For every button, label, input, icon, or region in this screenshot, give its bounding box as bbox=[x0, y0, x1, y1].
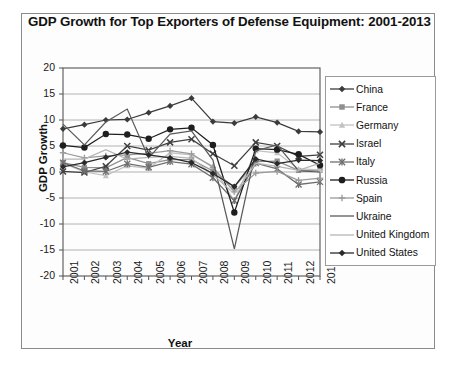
y-tick-label: -5 bbox=[21, 191, 55, 203]
y-tick-label: -20 bbox=[21, 269, 55, 281]
legend-marker-square-icon bbox=[329, 100, 355, 114]
data-point-diamond bbox=[339, 250, 346, 257]
data-point-circle bbox=[339, 177, 346, 184]
legend-label: United Kingdom bbox=[356, 229, 429, 240]
y-tick-label: 20 bbox=[21, 61, 55, 73]
data-point-square bbox=[339, 105, 344, 110]
legend-item-ukraine[interactable]: Ukraine bbox=[329, 207, 433, 225]
legend-item-united-kingdom[interactable]: United Kingdom bbox=[329, 226, 433, 244]
x-tick-label: 2006 bbox=[175, 261, 187, 284]
legend-marker-none-icon bbox=[329, 209, 355, 223]
x-tick-label: 2004 bbox=[132, 261, 144, 284]
legend-label: France bbox=[356, 102, 388, 113]
legend-label: Israel bbox=[356, 138, 381, 149]
x-tick-label: 2007 bbox=[197, 261, 209, 284]
y-tick-label: -10 bbox=[21, 217, 55, 229]
x-tick-label: 2009 bbox=[239, 261, 251, 284]
y-tick-label: 10 bbox=[21, 113, 55, 125]
x-tick-label: 2005 bbox=[154, 261, 166, 284]
x-tick-label: 2008 bbox=[218, 261, 230, 284]
legend-label: United States bbox=[356, 247, 418, 258]
legend-label: Italy bbox=[356, 156, 375, 167]
x-tick-label: 2002 bbox=[89, 261, 101, 284]
chart-title: GDP Growth for Top Exporters of Defense … bbox=[0, 14, 459, 29]
x-axis-label: Year bbox=[60, 337, 300, 349]
y-tick-label: 0 bbox=[21, 165, 55, 177]
legend-item-italy[interactable]: Italy bbox=[329, 153, 433, 171]
y-tick-label: 5 bbox=[21, 139, 55, 151]
x-tick-label: 2010 bbox=[261, 261, 273, 284]
legend-marker-circle-icon bbox=[329, 173, 355, 187]
legend-item-united-states[interactable]: United States bbox=[329, 244, 433, 262]
legend-label: Germany bbox=[356, 120, 398, 131]
x-tick-label: 2012 bbox=[304, 261, 316, 284]
data-point-diamond bbox=[339, 86, 346, 93]
y-tick-label: 15 bbox=[21, 87, 55, 99]
legend-item-russia[interactable]: Russia bbox=[329, 171, 433, 189]
x-tick-label: 2001 bbox=[68, 261, 80, 284]
legend-marker-triangle-icon bbox=[329, 118, 355, 132]
legend-item-spain[interactable]: Spain bbox=[329, 189, 433, 207]
chart-legend: ChinaFranceGermanyIsraelItalyRussiaSpain… bbox=[325, 76, 436, 266]
legend-label: Ukraine bbox=[356, 211, 391, 222]
x-tick-label: 2003 bbox=[111, 261, 123, 284]
legend-marker-diamond-icon bbox=[329, 82, 355, 96]
y-tick-label: -15 bbox=[21, 243, 55, 255]
legend-label: China bbox=[356, 84, 383, 95]
legend-marker-diamond-icon bbox=[329, 246, 355, 260]
legend-item-france[interactable]: France bbox=[329, 98, 433, 116]
legend-item-israel[interactable]: Israel bbox=[329, 135, 433, 153]
legend-marker-asterisk-icon bbox=[329, 155, 355, 169]
x-tick-label: 2011 bbox=[282, 261, 294, 284]
data-point-plus bbox=[339, 195, 346, 202]
legend-marker-x-icon bbox=[329, 137, 355, 151]
legend-item-germany[interactable]: Germany bbox=[329, 116, 433, 134]
legend-item-china[interactable]: China bbox=[329, 80, 433, 98]
legend-marker-none-icon bbox=[329, 228, 355, 242]
legend-label: Spain bbox=[356, 193, 382, 204]
legend-label: Russia bbox=[356, 175, 387, 186]
legend-marker-plus-icon bbox=[329, 191, 355, 205]
